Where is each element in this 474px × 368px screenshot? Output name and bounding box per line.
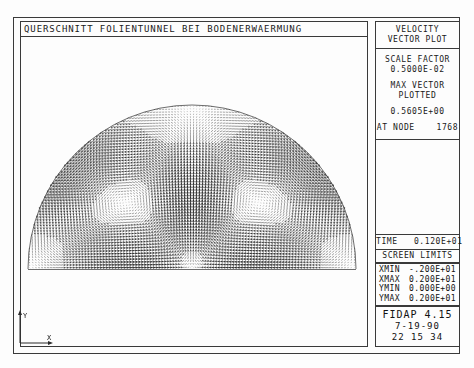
legend-column: VELOCITY VECTOR PLOT SCALE FACTOR 0.5000… <box>375 21 460 347</box>
axis-label-x: X <box>47 334 52 342</box>
time-panel: TIME 0.120E+01 <box>375 234 460 249</box>
time-value: 0.120E+01 <box>414 237 463 246</box>
axis-triad: Y X <box>14 305 60 347</box>
scale-factor-value: 0.5000E-02 <box>376 65 459 75</box>
legend-title-line2: VECTOR PLOT <box>376 35 459 45</box>
plot-date: 7-19-90 <box>376 321 459 332</box>
legend-blank-spacer <box>375 140 460 234</box>
max-vector-label-line1: MAX VECTOR <box>376 81 459 91</box>
plot-title-box: QUERSCHNITT FOLIENTUNNEL BEI BODENERWAER… <box>20 21 368 37</box>
limit-key: XMIN <box>379 265 400 275</box>
footer-panel: FIDAP 4.15 7-19-90 22 15 34 <box>375 306 460 347</box>
velocity-vector-field <box>21 37 367 345</box>
limit-key: YMIN <box>379 284 400 294</box>
max-vector-label-line2: PLOTTED <box>376 91 459 101</box>
screen-limits-title: SCREEN LIMITS <box>376 251 459 261</box>
limit-key: XMAX <box>379 275 400 285</box>
limit-value: 0.200E+01 <box>409 275 456 285</box>
legend-title-line1: VELOCITY <box>376 25 459 35</box>
limit-value: 0.000E+00 <box>409 284 456 294</box>
screen-limit-row-ymax: YMAX0.200E+01 <box>376 294 459 304</box>
legend-values-panel: SCALE FACTOR 0.5000E-02 MAX VECTOR PLOTT… <box>375 49 460 140</box>
screen-limit-row-ymin: YMIN0.000E+00 <box>376 284 459 294</box>
screen-limit-row-xmax: XMAX0.200E+01 <box>376 275 459 285</box>
limit-value: -.200E+01 <box>409 265 456 275</box>
legend-header-panel: VELOCITY VECTOR PLOT <box>375 21 460 49</box>
limit-key: YMAX <box>379 294 400 304</box>
vector-plot-area <box>20 37 368 347</box>
at-node-value: 1768 <box>436 123 458 132</box>
screen-limits-values: XMIN-.200E+01XMAX0.200E+01YMIN0.000E+00Y… <box>375 263 460 306</box>
plot-time: 22 15 34 <box>376 332 459 343</box>
time-line: TIME 0.120E+01 <box>376 237 459 247</box>
max-vector-value: 0.5605E+00 <box>376 107 459 117</box>
time-label: TIME <box>376 237 398 246</box>
at-node-label: AT NODE <box>377 123 415 132</box>
screen-limits-title-panel: SCREEN LIMITS <box>375 249 460 263</box>
page-title: QUERSCHNITT FOLIENTUNNEL BEI BODENERWAER… <box>24 24 302 34</box>
fidap-plot-window: QUERSCHNITT FOLIENTUNNEL BEI BODENERWAER… <box>0 0 474 368</box>
program-name: FIDAP 4.15 <box>376 309 459 321</box>
scale-factor-label: SCALE FACTOR <box>376 55 459 65</box>
screen-limit-row-xmin: XMIN-.200E+01 <box>376 265 459 275</box>
at-node-line: AT NODE 1768 <box>376 123 459 133</box>
limit-value: 0.200E+01 <box>409 294 456 304</box>
axis-label-y: Y <box>23 312 28 320</box>
